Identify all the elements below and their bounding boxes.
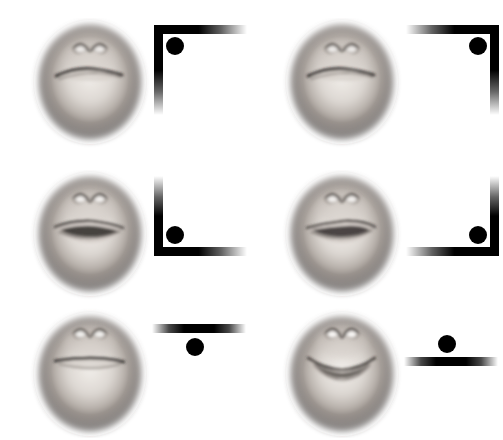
horizontal-line-dot-above-icon xyxy=(400,308,503,438)
face-stimulus xyxy=(28,18,153,148)
geometric-cue xyxy=(400,170,503,300)
corner-bracket-bottom-right-icon xyxy=(400,170,503,300)
geometric-cue xyxy=(400,308,503,438)
horizontal-line-dot-below-icon xyxy=(148,308,253,438)
lower-face-smile-slanted-mirror-icon xyxy=(280,18,405,148)
geometric-cue xyxy=(148,170,253,300)
geometric-cue xyxy=(148,18,253,148)
black-dot-icon xyxy=(166,37,184,55)
stimulus-grid xyxy=(0,0,503,440)
corner-bracket-top-right-icon xyxy=(400,18,503,148)
face-stimulus xyxy=(28,308,153,438)
lower-face-smile-slanted-icon xyxy=(28,18,153,148)
geometric-cue xyxy=(148,308,253,438)
lower-face-frown-icon xyxy=(280,308,405,438)
geometric-cue xyxy=(400,18,503,148)
corner-bracket-top-left-icon xyxy=(148,18,253,148)
face-stimulus xyxy=(280,18,405,148)
black-dot-icon xyxy=(166,226,184,244)
face-stimulus xyxy=(280,170,405,300)
lower-face-open-mouth-mirror-icon xyxy=(280,170,405,300)
face-stimulus xyxy=(28,170,153,300)
black-dot-icon xyxy=(469,37,487,55)
corner-bracket-bottom-left-icon xyxy=(148,170,253,300)
lower-face-neutral-smile-icon xyxy=(28,308,153,438)
black-dot-icon xyxy=(469,226,487,244)
face-stimulus xyxy=(280,308,405,438)
black-dot-icon xyxy=(186,338,204,356)
lower-face-open-mouth-icon xyxy=(28,170,153,300)
black-dot-icon xyxy=(438,335,456,353)
